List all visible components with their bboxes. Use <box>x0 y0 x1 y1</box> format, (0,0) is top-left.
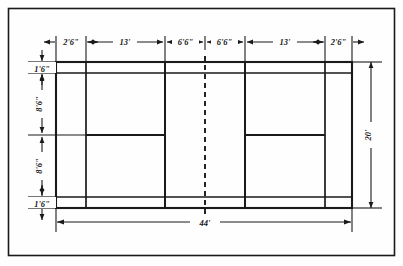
dim-label-44-bottom: 44' <box>199 218 212 228</box>
dim-label-2-6-left: 2'6" <box>62 37 79 47</box>
dim-seg-left-6-6: 6'6" <box>167 35 203 48</box>
right-dimension-column: 20' <box>352 62 382 208</box>
dim-label-20-right: 20' <box>363 129 373 142</box>
bottom-dimension-row: 44' <box>56 208 352 232</box>
dim-seg-upper-8-6: 8'6" <box>34 75 50 133</box>
badminton-court-figure: 2'6" 13' 6'6" <box>0 0 403 266</box>
dim-seg-right-6-6: 6'6" <box>207 35 243 48</box>
dim-label-6-6-right: 6'6" <box>217 37 233 47</box>
dim-label-8-6-upper: 8'6" <box>34 96 44 112</box>
dim-seg-right-13: 13' <box>247 35 323 48</box>
dim-seg-bottom-1-6: 1'6" <box>28 185 56 220</box>
dim-label-1-6-top: 1'6" <box>34 64 50 74</box>
dim-seg-right-alley: 2'6" <box>313 37 364 47</box>
court-diagram-svg: 2'6" 13' 6'6" <box>0 0 403 266</box>
top-dimension-row: 2'6" 13' 6'6" <box>44 35 364 62</box>
dim-label-8-6-lower: 8'6" <box>34 158 44 174</box>
dim-label-1-6-bottom: 1'6" <box>34 199 50 209</box>
dim-label-6-6-left: 6'6" <box>178 37 194 47</box>
dim-label-13-right: 13' <box>280 37 292 47</box>
dim-label-2-6-right: 2'6" <box>330 37 347 47</box>
dim-seg-left-13: 13' <box>88 35 163 48</box>
court-lines <box>56 56 352 215</box>
dim-label-13-left: 13' <box>120 37 132 47</box>
